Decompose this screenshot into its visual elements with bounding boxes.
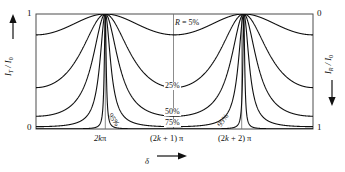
right-axis-label-sub1: R bbox=[328, 67, 334, 71]
right-axis-label-sub2: 0 bbox=[328, 55, 334, 58]
curve-label-25: 25% bbox=[164, 82, 181, 90]
right-axis-label-mid: / I bbox=[323, 58, 333, 67]
left-axis-bottom-value: 0 bbox=[27, 123, 32, 132]
xaxis-title-group: δ bbox=[145, 150, 149, 168]
xtick-label-2k1pi: (2k + 1) π bbox=[150, 134, 183, 143]
left-axis-label: IT / I0 bbox=[4, 57, 14, 76]
xtick-label-2k2pi: (2k + 2) π bbox=[218, 134, 251, 143]
left-axis-up-arrow-icon bbox=[6, 14, 20, 40]
right-axis-down-arrow-icon bbox=[325, 80, 339, 106]
right-axis-bottom-value: 1 bbox=[317, 123, 322, 132]
xtick-label-2kpi: 2kπ bbox=[94, 134, 106, 143]
left-axis-label-main: I bbox=[3, 73, 13, 76]
left-axis-top-value: 1 bbox=[27, 9, 32, 18]
right-axis-label-main: I bbox=[323, 71, 333, 74]
xaxis-title: δ bbox=[145, 156, 149, 166]
airy-transmission-figure: 1 0 0 1 IT / I0 IR / I0 2kπ (2k + 1) π (… bbox=[0, 0, 345, 172]
curve-label-75: 75% bbox=[164, 119, 181, 127]
curve-label-r5-rest: = 5% bbox=[180, 18, 199, 27]
right-axis-label: IR / I0 bbox=[324, 55, 334, 74]
curve-label-r5: R = 5% bbox=[174, 19, 200, 27]
right-axis-top-value: 0 bbox=[317, 9, 322, 18]
left-axis-label-sub1: T bbox=[8, 70, 14, 73]
curve-label-50: 50% bbox=[164, 108, 181, 116]
right-axis-label-group: IR / I0 bbox=[322, 36, 344, 118]
xaxis-right-arrow-icon bbox=[157, 151, 187, 161]
left-axis-label-sub2: 0 bbox=[8, 57, 14, 60]
left-axis-label-mid: / I bbox=[3, 60, 13, 69]
left-axis-label-group: IT / I0 bbox=[2, 36, 24, 112]
